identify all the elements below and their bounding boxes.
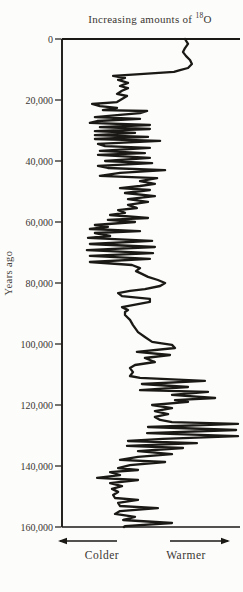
y-tick-label: 100,000 — [21, 339, 54, 350]
y-tick-label: 40,000 — [26, 156, 54, 167]
isotope-plot-svg: 020,00040,00060,00080,000100,000120,0001… — [0, 0, 243, 592]
y-tick-label: 160,000 — [21, 522, 54, 533]
y-tick-label: 80,000 — [26, 278, 54, 289]
y-tick-label: 0 — [48, 34, 53, 45]
temperature-arrow — [58, 538, 230, 544]
x-axis-label-colder: Colder — [62, 549, 142, 561]
x-axis-label-warmer: Warmer — [146, 549, 226, 561]
y-axis-ticks: 020,00040,00060,00080,000100,000120,0001… — [21, 34, 62, 533]
y-tick-label: 140,000 — [21, 461, 54, 472]
y-axis-label: Years ago — [3, 234, 14, 312]
warmer-arrowhead-icon — [221, 538, 230, 544]
y-tick-label: 20,000 — [26, 95, 54, 106]
isotope-curve — [87, 39, 238, 527]
y-tick-label: 60,000 — [26, 217, 54, 228]
isotope-chart-figure: Increasing amounts of 18O 020,00040,0006… — [0, 0, 243, 592]
colder-arrowhead-icon — [58, 538, 67, 544]
y-tick-label: 120,000 — [21, 400, 54, 411]
